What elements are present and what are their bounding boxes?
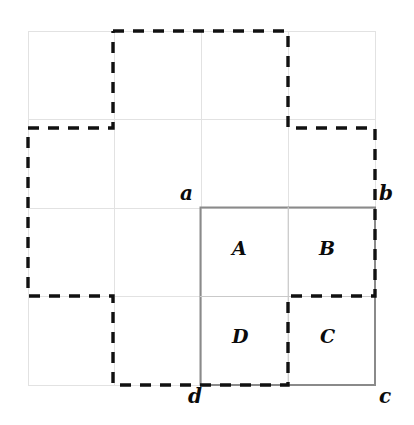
region-label-d: D	[232, 327, 248, 346]
region-label-a: A	[232, 239, 247, 258]
vertex-label-c: c	[379, 386, 391, 406]
dissection-diagram	[0, 0, 414, 425]
vertex-label-b: b	[379, 183, 393, 203]
solid-square-abcd	[201, 208, 376, 386]
region-label-c: C	[320, 327, 335, 346]
vertex-label-d: d	[188, 386, 202, 406]
figure-canvas: a b c d A B C D	[0, 0, 414, 425]
region-label-b: B	[319, 239, 335, 258]
vertex-label-a: a	[180, 183, 193, 203]
